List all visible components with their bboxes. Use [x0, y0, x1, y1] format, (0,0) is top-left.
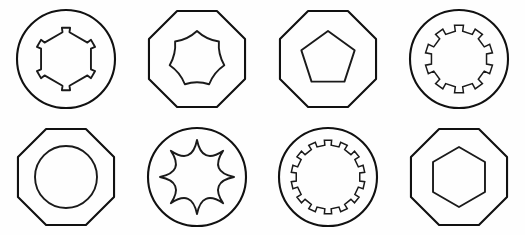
inner-seven-lobe-torx-shape [170, 31, 225, 84]
inner-hexagon-shape [433, 147, 485, 207]
circle-with-eight-point-star-icon [135, 118, 259, 235]
shape-cell-3[interactable] [263, 0, 394, 118]
octagon-with-pentagon-icon [266, 0, 390, 118]
inner-notched-hexagon-shape [37, 28, 95, 90]
outer-circle-shape [279, 128, 377, 226]
circle-with-ten-tooth-spline-icon [397, 0, 521, 118]
octagon-with-hexagon-icon [397, 118, 521, 235]
shape-figure [0, 0, 525, 235]
shape-cell-7[interactable] [263, 118, 394, 235]
shape-grid [0, 0, 525, 235]
outer-octagon-shape [280, 11, 376, 107]
inner-spline-shape [291, 140, 364, 214]
octagon-with-circle-icon [4, 118, 128, 235]
outer-octagon-shape [149, 11, 245, 107]
shape-cell-8[interactable] [394, 118, 525, 235]
shape-cell-6[interactable] [131, 118, 262, 235]
shape-cell-4[interactable] [394, 0, 525, 118]
inner-spline-shape [426, 25, 493, 92]
shape-cell-1[interactable] [0, 0, 131, 118]
octagon-with-seven-lobe-torx-icon [135, 0, 259, 118]
circle-with-notched-hexagon-icon [4, 0, 128, 118]
circle-with-fourteen-tooth-spline-icon [266, 118, 390, 235]
inner-circle-shape [35, 146, 97, 208]
outer-circle-shape [17, 10, 115, 108]
outer-octagon-shape [411, 129, 507, 225]
outer-octagon-shape [18, 129, 114, 225]
shape-cell-5[interactable] [0, 118, 131, 235]
inner-eight-point-star-shape [160, 140, 234, 214]
shape-cell-2[interactable] [131, 0, 262, 118]
inner-pentagon-shape [301, 31, 354, 82]
